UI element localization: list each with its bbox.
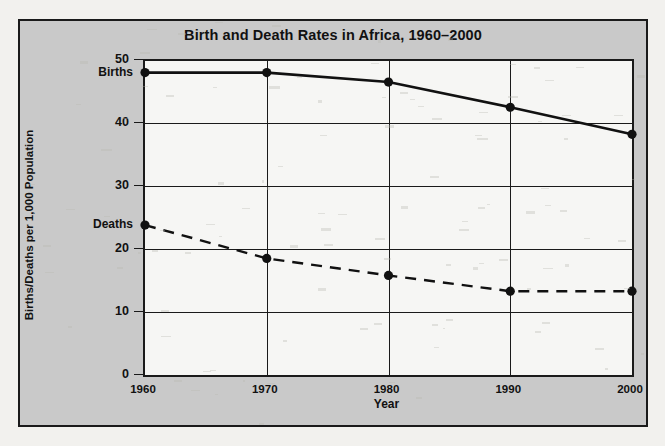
paper-speck <box>80 61 88 63</box>
x-tick-label: 2000 <box>617 383 643 395</box>
y-tick-label: 40 <box>95 115 129 129</box>
data-point-marker <box>506 287 515 296</box>
y-axis-label-text: Births/Deaths per 1,000 Population <box>23 130 35 320</box>
data-point-marker <box>384 271 393 280</box>
y-tick-mark <box>134 374 143 375</box>
y-tick-label: 20 <box>95 241 129 255</box>
y-tick-mark <box>134 185 143 186</box>
x-axis-label: Year <box>143 397 630 411</box>
data-point-marker <box>627 287 636 296</box>
data-point-marker <box>140 68 149 77</box>
paper-speck <box>637 75 645 77</box>
series-label-deaths: Deaths <box>93 217 139 231</box>
plot-area <box>143 59 634 377</box>
paper-speck <box>191 390 200 391</box>
paper-speck <box>68 326 71 327</box>
series-overlay <box>145 60 632 375</box>
paper-speck <box>215 22 223 23</box>
paper-speck <box>101 149 111 152</box>
y-tick-label: 0 <box>95 367 129 381</box>
y-tick-label: 10 <box>95 304 129 318</box>
chart-figure-frame: Birth and Death Rates in Africa, 1960–20… <box>18 19 648 427</box>
y-axis-label: Births/Deaths per 1,000 Population <box>18 21 40 429</box>
y-tick-mark <box>134 59 143 60</box>
paper-speck <box>641 353 644 354</box>
y-tick-mark <box>134 311 143 312</box>
paper-speck <box>215 394 218 395</box>
x-tick-label: 1990 <box>495 383 521 395</box>
paper-speck <box>138 252 141 253</box>
data-point-marker <box>506 103 515 112</box>
y-tick-mark <box>134 122 143 123</box>
data-point-marker <box>262 254 271 263</box>
paper-speck <box>243 380 245 382</box>
data-point-marker <box>140 220 149 229</box>
x-tick-label: 1980 <box>374 383 400 395</box>
y-tick-mark <box>134 248 143 249</box>
x-tick-label: 1970 <box>252 383 278 395</box>
data-point-marker <box>262 68 271 77</box>
data-point-marker <box>627 130 636 139</box>
paper-speck <box>140 52 150 55</box>
paper-speck <box>76 104 80 105</box>
x-tick-label: 1960 <box>130 383 156 395</box>
paper-speck <box>174 380 181 381</box>
y-tick-label: 30 <box>95 178 129 192</box>
paper-speck <box>45 272 54 273</box>
paper-speck <box>43 245 50 248</box>
paper-speck <box>117 267 123 269</box>
data-point-marker <box>384 77 393 86</box>
paper-speck <box>259 423 264 425</box>
paper-speck <box>66 209 75 210</box>
chart-title: Birth and Death Rates in Africa, 1960–20… <box>20 27 646 43</box>
series-label-births: Births <box>98 65 139 79</box>
series-line-deaths <box>145 225 632 291</box>
